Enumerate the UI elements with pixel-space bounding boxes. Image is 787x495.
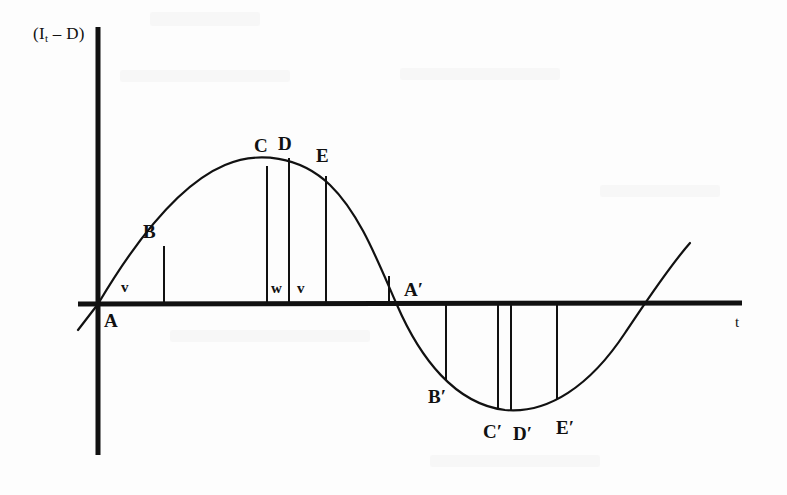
sine-curve xyxy=(78,157,690,410)
point-label-c-prime: C′ xyxy=(483,422,502,441)
y-axis-label-head: (I xyxy=(33,24,45,43)
point-label-a-prime: A′ xyxy=(404,280,423,299)
x-axis xyxy=(78,303,742,304)
figure-canvas: (It – D) t A B C D E A′ B′ C′ D′ E′ v w … xyxy=(0,0,787,495)
x-axis-label: t xyxy=(735,315,739,330)
point-label-e-prime: E′ xyxy=(556,418,574,437)
point-label-b: B xyxy=(143,222,156,241)
figure-graphic xyxy=(0,0,787,495)
point-label-d: D xyxy=(278,134,292,153)
point-label-b-prime: B′ xyxy=(428,387,446,406)
y-axis-label-tail: – D) xyxy=(48,24,84,43)
point-label-e: E xyxy=(316,146,329,165)
interval-label-v-first: v xyxy=(121,280,129,295)
point-label-a: A xyxy=(104,311,118,330)
point-label-c: C xyxy=(254,136,268,155)
interval-label-w-middle: w xyxy=(271,281,282,296)
point-label-d-prime: D′ xyxy=(513,424,532,443)
y-axis-label: (It – D) xyxy=(33,25,85,44)
interval-label-v-second: v xyxy=(297,281,305,296)
